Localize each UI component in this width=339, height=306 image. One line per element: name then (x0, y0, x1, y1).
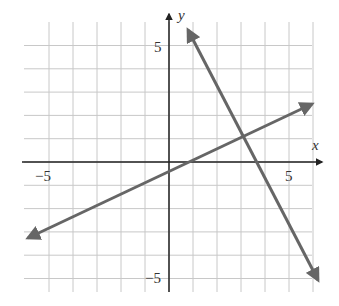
x-tick-neg5: −5 (35, 168, 51, 184)
y-axis-label: y (176, 7, 185, 23)
line-1 (28, 104, 312, 238)
y-tick-neg5: −5 (145, 270, 161, 286)
y-tick-pos5: 5 (154, 39, 162, 55)
line-2 (188, 30, 318, 280)
x-axis-label: x (311, 137, 319, 153)
x-tick-pos5: 5 (285, 168, 293, 184)
coordinate-plane: x y −5 5 5 −5 (0, 0, 339, 306)
